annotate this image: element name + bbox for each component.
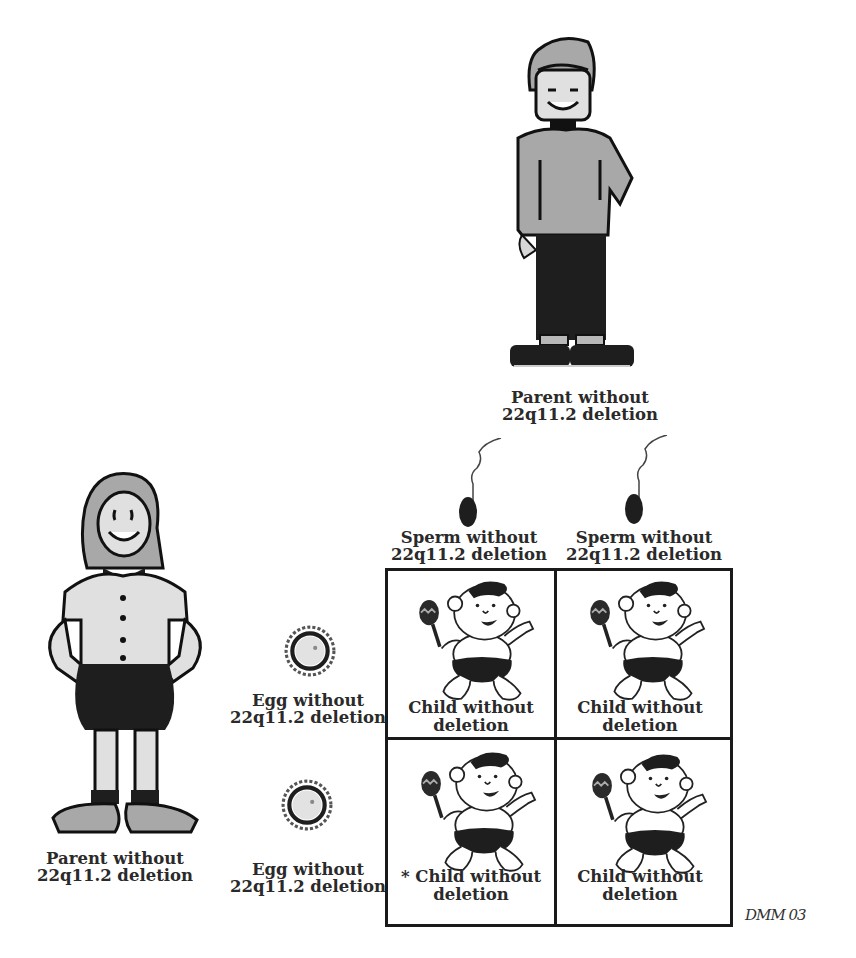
child-cell-bottom-right: Child without deletion: [557, 740, 723, 906]
child-label-marked: * Child without deletion: [388, 868, 554, 904]
father-figure: [500, 30, 650, 380]
child-label: Child without deletion: [388, 699, 554, 735]
punnett-square: Child without deletion Child without del…: [385, 568, 733, 927]
cartoon-boy-icon: [500, 30, 650, 380]
cartoon-baby-icon: [571, 748, 721, 878]
sperm-2-label: Sperm without 22q11.2 deletion: [560, 529, 728, 563]
mother-figure: [35, 468, 215, 840]
sperm-2: [616, 435, 686, 527]
sperm-cell-icon: [616, 435, 686, 527]
egg-2-label: Egg without 22q11.2 deletion: [218, 861, 398, 895]
sperm-1: [455, 438, 515, 530]
egg-1: [284, 625, 336, 677]
child-cell-top-left: Child without deletion: [388, 571, 554, 737]
child-label: Child without deletion: [557, 699, 723, 735]
child-label: Child without deletion: [557, 868, 723, 904]
cartoon-baby-icon: [398, 575, 548, 705]
cartoon-baby-icon: [569, 575, 719, 705]
child-cell-top-right: Child without deletion: [557, 571, 723, 737]
egg-cell-icon: [284, 625, 336, 677]
child-cell-bottom-left: * Child without deletion: [388, 740, 554, 906]
sperm-1-label: Sperm without 22q11.2 deletion: [385, 529, 553, 563]
mother-label: Parent without 22q11.2 deletion: [10, 850, 220, 884]
egg-cell-icon: [281, 779, 333, 831]
father-label: Parent without 22q11.2 deletion: [470, 389, 690, 423]
author-signature: DMM 03: [745, 906, 806, 924]
cartoon-baby-icon: [400, 746, 550, 876]
cartoon-girl-icon: [35, 468, 215, 840]
egg-2: [281, 779, 333, 831]
sperm-cell-icon: [455, 438, 515, 530]
egg-1-label: Egg without 22q11.2 deletion: [218, 692, 398, 726]
